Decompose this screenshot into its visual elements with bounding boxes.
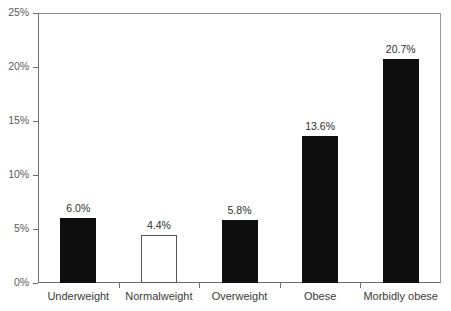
bar-value-label: 20.7%	[386, 43, 416, 55]
bar-value-label: 6.0%	[66, 202, 90, 214]
bar-underweight	[60, 218, 96, 283]
y-axis-tick-label: 0%	[0, 276, 29, 288]
bar-normalweight	[141, 235, 177, 283]
x-tick-mark	[280, 283, 281, 288]
y-tick-mark	[33, 121, 38, 122]
bar-overweight	[222, 220, 258, 283]
bar-chart: 0%5%10%15%20%25% UnderweightNormalweight…	[0, 0, 451, 311]
x-tick-mark	[199, 283, 200, 288]
x-axis-category-label: Normalweight	[125, 290, 192, 302]
bar-value-label: 13.6%	[305, 120, 335, 132]
bar-value-label: 5.8%	[228, 204, 252, 216]
x-axis-category-label: Morbidly obese	[363, 290, 438, 302]
y-tick-mark	[33, 67, 38, 68]
bar-obese	[302, 136, 338, 283]
y-axis-tick-label: 5%	[0, 222, 29, 234]
bar-morbidly-obese	[383, 59, 419, 283]
y-axis-tick-label: 15%	[0, 114, 29, 126]
y-axis-tick-label: 25%	[0, 6, 29, 18]
x-axis-category-label: Obese	[304, 290, 336, 302]
y-axis-tick-label: 20%	[0, 60, 29, 72]
y-axis-tick-label: 10%	[0, 168, 29, 180]
x-axis-category-label: Overweight	[212, 290, 268, 302]
x-tick-mark	[360, 283, 361, 288]
x-tick-mark	[119, 283, 120, 288]
y-tick-mark	[33, 13, 38, 14]
y-tick-mark	[33, 283, 38, 284]
y-tick-mark	[33, 229, 38, 230]
y-tick-mark	[33, 175, 38, 176]
bar-value-label: 4.4%	[147, 219, 171, 231]
x-axis-category-label: Underweight	[47, 290, 109, 302]
